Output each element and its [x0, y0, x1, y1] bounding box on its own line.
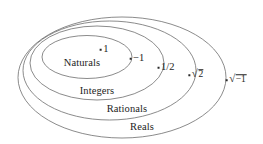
point-marker-dot-icon [158, 67, 160, 69]
point-one-half: 1/2 [158, 62, 175, 73]
point-negative-one: −1 [130, 53, 145, 64]
point-label-sqrt-two: √ 2 [192, 68, 204, 80]
set-label-integers: Integers [80, 85, 115, 96]
point-one: 1 [100, 44, 109, 55]
point-sqrt-two: √ 2 [188, 68, 203, 80]
radicand-sqrt-two: 2 [198, 69, 204, 80]
point-label-one-half: 1/2 [161, 62, 174, 73]
point-label-negative-one: −1 [133, 53, 144, 64]
set-label-reals: Reals [130, 121, 154, 132]
set-label-naturals: Naturals [64, 57, 100, 68]
set-label-rationals: Rationals [107, 103, 148, 114]
point-marker-dot-icon [226, 79, 228, 81]
point-marker-dot-icon [130, 58, 132, 60]
number-sets-diagram: Naturals Integers Rationals Reals 1 −1 1… [0, 0, 263, 144]
labels-overlay: Naturals Integers Rationals Reals 1 −1 1… [0, 0, 263, 144]
point-label-sqrt-negative-one: √ −1 [229, 73, 246, 85]
point-marker-dot-icon [188, 74, 190, 76]
point-marker-dot-icon [100, 49, 102, 51]
point-label-one: 1 [103, 44, 108, 55]
radicand-sqrt-negative-one: −1 [235, 74, 246, 85]
point-sqrt-negative-one: √ −1 [226, 73, 247, 85]
